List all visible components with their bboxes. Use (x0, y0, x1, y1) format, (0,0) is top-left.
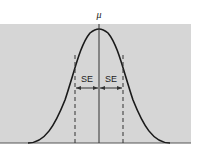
left-se-label: SE (81, 74, 93, 84)
plot-background (0, 24, 191, 143)
normal-curve-diagram: μ SE SE (0, 0, 205, 157)
right-se-label: SE (105, 74, 117, 84)
mean-label: μ (95, 9, 101, 20)
